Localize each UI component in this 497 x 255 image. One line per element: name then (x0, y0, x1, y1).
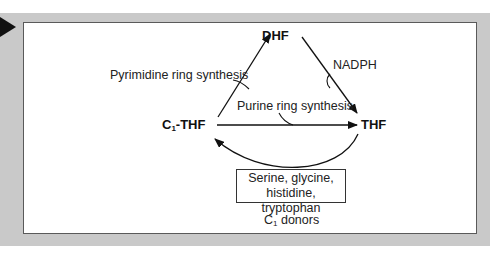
label-purine-ring-synthesis: Purine ring synthesis (237, 99, 353, 113)
label-pyrimidine-ring-synthesis: Pyrimidine ring synthesis (110, 68, 248, 82)
arrow-thf-to-c1thf (215, 134, 358, 167)
donors-line-2: histidine, tryptophan (237, 186, 345, 216)
node-thf-label: THF (361, 117, 386, 132)
c1thf-prefix: C (162, 117, 171, 132)
label-c1-donors: C1 donors (264, 213, 319, 228)
c1thf-suffix: -THF (176, 117, 206, 132)
node-c1-thf: C1-THF (162, 117, 205, 133)
node-thf: THF (361, 117, 386, 132)
label-nadph: NADPH (333, 58, 377, 72)
c1-donors-box: Serine, glycine, histidine, tryptophan (236, 169, 346, 203)
node-dhf-label: DHF (262, 28, 289, 43)
c1-donors-prefix: C (264, 213, 273, 227)
diagram-arrows (0, 0, 497, 255)
purine-hook (279, 113, 293, 125)
node-dhf: DHF (262, 28, 289, 43)
c1-donors-suffix: donors (277, 213, 319, 227)
donors-line-1: Serine, glycine, (237, 171, 345, 186)
